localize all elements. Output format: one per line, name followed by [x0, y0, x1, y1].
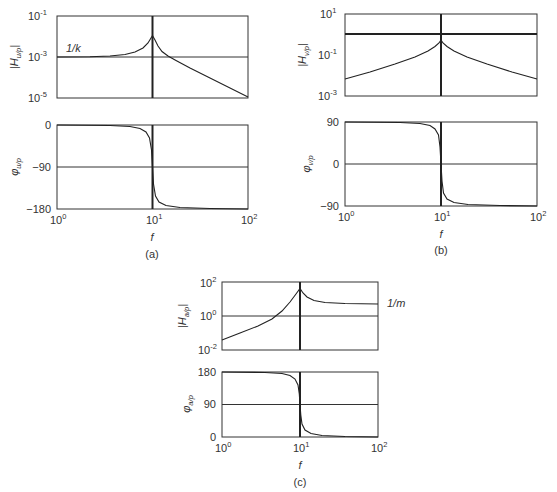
x-axis-label: f — [298, 459, 302, 471]
panel-a-phase-plot: 0 −90 −180 φu/p 100 101 102 f (a) — [8, 119, 257, 260]
svg-text:101: 101 — [320, 6, 336, 20]
y-tick-labels: 0 −90 −180 — [26, 119, 51, 215]
y-tick-labels: 102 100 10-2 — [198, 275, 217, 356]
y-axis-label: φu/p — [8, 158, 23, 176]
svg-text:10-2: 10-2 — [198, 342, 217, 356]
svg-text:−90: −90 — [320, 200, 339, 212]
y-axis-label: φv/p — [300, 155, 315, 172]
svg-text:180: 180 — [198, 366, 216, 378]
panel-caption: (c) — [294, 476, 307, 488]
panel-c-phase-plot: 180 90 0 φa/p 100 101 102 f (c) — [180, 366, 387, 488]
x-tick-labels: 100 101 102 — [50, 212, 257, 226]
svg-text:102: 102 — [371, 440, 387, 454]
x-tick-labels: 100 101 102 — [215, 440, 387, 454]
y-tick-labels: 180 90 0 — [198, 366, 216, 443]
y-axis-label: |Ha/p| — [176, 304, 191, 328]
svg-text:10-1: 10-1 — [318, 47, 337, 61]
svg-text:102: 102 — [200, 275, 216, 289]
y-axis-label: |Hv/p| — [296, 43, 311, 67]
panel-c-magnitude-plot: 1/m 102 100 10-2 |Ha/p| — [176, 275, 405, 356]
svg-text:10-3: 10-3 — [28, 49, 47, 63]
y-axis-label: |Hu/p| — [8, 45, 23, 69]
svg-text:10-5: 10-5 — [28, 90, 47, 104]
panel-a-magnitude-plot: 1/k 10-1 10-3 10-5 |Hu/p| — [8, 8, 248, 104]
svg-text:100: 100 — [50, 212, 66, 226]
annotation-1-over-k: 1/k — [66, 42, 81, 54]
y-tick-labels: 90 0 −90 — [320, 116, 339, 212]
x-tick-labels: 100 101 102 — [338, 209, 546, 223]
svg-text:−180: −180 — [26, 203, 51, 215]
svg-text:101: 101 — [434, 209, 450, 223]
annotation-1-over-m: 1/m — [387, 297, 405, 309]
panel-b-phase-plot: 90 0 −90 φv/p 100 101 102 f (b) — [300, 116, 546, 256]
x-axis-label: f — [439, 228, 443, 240]
svg-text:90: 90 — [327, 116, 339, 128]
svg-text:90: 90 — [204, 398, 216, 410]
panel-b: 101 10-1 10-3 |Hv/p| 90 0 −90 φv/p 100 1… — [296, 6, 546, 256]
frf-figure: 1/k 10-1 10-3 10-5 |Hu/p| 0 −90 −180 φu/… — [0, 0, 557, 492]
svg-text:10-3: 10-3 — [318, 88, 337, 102]
y-axis-label: φa/p — [180, 395, 195, 413]
svg-text:101: 101 — [293, 440, 309, 454]
svg-text:−90: −90 — [32, 161, 51, 173]
svg-text:0: 0 — [45, 119, 51, 131]
y-tick-labels: 101 10-1 10-3 — [318, 6, 337, 102]
panel-b-magnitude-plot: 101 10-1 10-3 |Hv/p| — [296, 6, 537, 102]
svg-text:102: 102 — [241, 212, 257, 226]
panel-c: 1/m 102 100 10-2 |Ha/p| 180 90 0 φa/p 10… — [176, 275, 405, 488]
svg-text:100: 100 — [215, 440, 231, 454]
panel-caption: (a) — [145, 248, 158, 260]
x-axis-label: f — [150, 231, 154, 243]
y-tick-labels: 10-1 10-3 10-5 — [28, 8, 47, 104]
svg-text:10-1: 10-1 — [28, 8, 47, 22]
panel-a: 1/k 10-1 10-3 10-5 |Hu/p| 0 −90 −180 φu/… — [8, 8, 257, 260]
svg-text:100: 100 — [200, 308, 216, 322]
svg-text:0: 0 — [333, 158, 339, 170]
svg-text:101: 101 — [146, 212, 162, 226]
svg-text:100: 100 — [338, 209, 354, 223]
panel-caption: (b) — [434, 244, 447, 256]
svg-text:102: 102 — [530, 209, 546, 223]
